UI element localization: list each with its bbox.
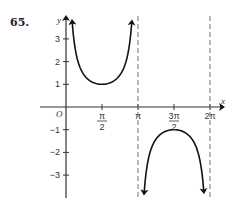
y-tick-label: −2 — [50, 147, 60, 157]
y-axis-label: y — [56, 15, 61, 25]
x-tick-label-denominator: 2 — [171, 122, 176, 132]
y-tick-label: −1 — [50, 125, 60, 135]
csc-branch-negative-right — [174, 130, 204, 191]
x-tick-label-numerator: 3π — [168, 111, 179, 121]
csc-branch-positive-left — [72, 22, 102, 84]
axes — [40, 18, 222, 198]
origin-label: O — [56, 109, 63, 119]
y-tick-label: −3 — [50, 170, 60, 180]
y-tick-label: 2 — [55, 57, 60, 67]
x-tick-label-numerator: π — [99, 111, 105, 121]
csc-branch-positive-right — [102, 22, 132, 84]
x-tick-label-denominator: 2 — [99, 122, 104, 132]
y-tick-label: 1 — [55, 79, 60, 89]
x-tick-label: 2π — [204, 111, 215, 121]
csc-branch-negative-left — [144, 130, 174, 193]
y-tick-label: 3 — [55, 34, 60, 44]
x-axis-label: x — [220, 96, 225, 106]
x-tick-label: π — [135, 111, 141, 121]
csc-graph: xyO321−1−2−3π2π3π22π — [0, 0, 230, 208]
